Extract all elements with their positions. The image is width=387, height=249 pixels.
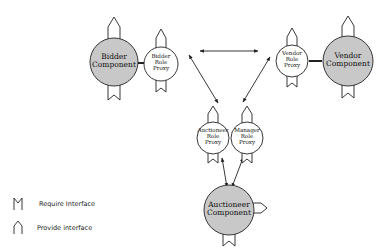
label-line: Component	[323, 60, 373, 68]
provide-interface-icon	[242, 106, 252, 123]
label-line: Component	[90, 61, 138, 69]
connector-bidder-auctioneer-proxy	[189, 55, 218, 103]
auctioneer-component-label: Auctioneer Component	[204, 201, 254, 217]
require-interface-icon	[208, 153, 218, 163]
legend-provide-interface-icon	[14, 221, 22, 234]
legend-require-label: Require Interface	[39, 200, 95, 208]
label-line: Proxy	[231, 140, 263, 146]
provide-interface-icon	[342, 16, 354, 37]
label-line: Proxy	[145, 66, 177, 72]
provide-interface-icon	[156, 29, 166, 48]
vendor-proxy-label: Vendor Role Proxy	[276, 51, 308, 69]
provide-interface-icon	[287, 28, 297, 46]
require-interface-icon	[223, 234, 235, 246]
bidder-component-label: Bidder Component	[90, 53, 138, 69]
require-interface-icon	[108, 85, 120, 100]
legend-provide-label: Provide interface	[37, 224, 92, 232]
provide-interface-icon	[253, 203, 267, 213]
component-diagram	[0, 0, 387, 249]
legend-require-interface-icon	[14, 198, 22, 210]
require-interface-icon	[156, 80, 166, 92]
label-line: Proxy	[276, 63, 308, 69]
auctioneer-proxy-label: Auctioneer Role Proxy	[197, 128, 229, 146]
require-interface-icon	[342, 85, 354, 98]
require-interface-icon	[287, 76, 297, 87]
vendor-component-label: Vendor Component	[323, 52, 373, 68]
provide-interface-icon	[108, 17, 120, 39]
connector-auctioneer-comp-manager	[232, 158, 243, 187]
require-interface-icon	[242, 153, 252, 163]
connector-auctioneer-comp-proxy	[222, 158, 227, 187]
connector-vendor-manager-proxy	[243, 57, 270, 102]
provide-interface-icon	[208, 106, 218, 123]
label-line: Proxy	[197, 140, 229, 146]
manager-proxy-label: Manager Role Proxy	[231, 128, 263, 146]
label-line: Component	[204, 209, 254, 217]
bidder-proxy-label: Bidder Role Proxy	[145, 54, 177, 72]
